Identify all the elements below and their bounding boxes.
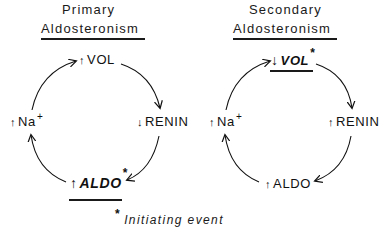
up-arrow-icon: ↑ (328, 116, 334, 128)
up-arrow-icon: ↑ (209, 116, 215, 128)
secondary-title-line1: Secondary (249, 2, 322, 17)
primary-node-na: ↑ Na + (10, 114, 43, 129)
secondary-node-vol: ↓ VOL * (271, 52, 315, 68)
arrow-renin-to-aldo (127, 136, 159, 180)
up-arrow-icon: ↑ (265, 178, 271, 190)
plus-superscript: + (37, 111, 43, 122)
node-label: VOL (281, 53, 310, 68)
footnote-text: Initiating event (124, 213, 224, 227)
initiating-asterisk-icon: * (123, 166, 128, 180)
secondary-node-na: ↑ Na + (209, 114, 242, 129)
up-arrow-icon: ↑ (70, 175, 78, 191)
asterisk-icon: * (115, 207, 120, 221)
primary-node-aldo: ↑ ALDO * (70, 175, 128, 191)
primary-aldo-underline (69, 199, 122, 201)
secondary-title-underline (233, 38, 337, 40)
arrow-aldo-to-na (31, 135, 66, 182)
node-label: ALDO (80, 175, 122, 191)
node-label: Na (18, 114, 36, 129)
secondary-vol-underline (270, 70, 313, 72)
primary-node-renin: ↓ RENIN (137, 114, 189, 129)
arrow-renin-to-aldo (315, 136, 351, 181)
node-label: ALDO (273, 176, 311, 191)
node-label: VOL (87, 52, 115, 67)
arrow-vol-to-renin (121, 64, 160, 108)
up-arrow-icon: ↑ (79, 54, 85, 66)
primary-node-vol: ↑ VOL (79, 52, 115, 67)
node-label: RENIN (336, 114, 379, 129)
arrow-na-to-vol (226, 61, 270, 110)
primary-title-line2: Aldosteronism (41, 21, 139, 36)
up-arrow-icon: ↑ (10, 116, 16, 128)
arrow-vol-to-renin (316, 64, 352, 108)
secondary-title-line2: Aldosteronism (233, 21, 331, 36)
plus-superscript: + (236, 111, 242, 122)
arrow-aldo-to-na (225, 135, 259, 182)
secondary-node-renin: ↑ RENIN (328, 114, 380, 129)
node-label: RENIN (145, 114, 188, 129)
down-arrow-icon: ↓ (271, 52, 279, 68)
primary-title-line1: Primary (62, 2, 115, 17)
down-arrow-icon: ↓ (137, 116, 143, 128)
arrow-na-to-vol (32, 61, 76, 110)
secondary-node-aldo: ↑ ALDO (265, 176, 311, 191)
footnote: * Initiating event (114, 210, 224, 228)
node-label: Na (217, 114, 235, 129)
initiating-asterisk-icon: * (310, 46, 315, 60)
primary-title-underline (41, 38, 145, 40)
